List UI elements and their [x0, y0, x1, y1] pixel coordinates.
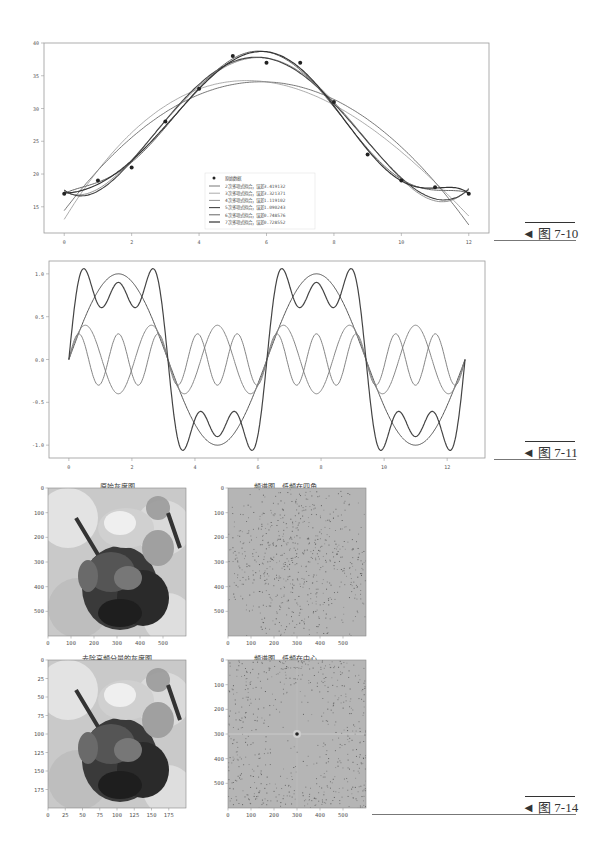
svg-text:50: 50 [79, 812, 86, 818]
svg-text:500: 500 [338, 640, 348, 646]
svg-text:200: 200 [34, 534, 44, 540]
svg-text:400: 400 [214, 756, 224, 762]
svg-text:6: 6 [257, 464, 260, 470]
svg-text:300: 300 [34, 559, 44, 565]
svg-text:400: 400 [135, 640, 145, 646]
svg-text:15: 15 [33, 204, 39, 210]
svg-text:150: 150 [147, 812, 157, 818]
svg-text:25: 25 [62, 812, 69, 818]
svg-text:20: 20 [33, 171, 39, 177]
svg-text:0: 0 [226, 640, 229, 646]
data-point [163, 120, 167, 124]
svg-text:300: 300 [292, 640, 302, 646]
svg-text:100: 100 [246, 812, 256, 818]
legend-label: 原始数据 [225, 175, 242, 182]
svg-text:200: 200 [214, 706, 224, 712]
data-point [62, 192, 66, 196]
data-point [332, 100, 336, 104]
data-point [265, 61, 269, 65]
svg-text:0: 0 [41, 485, 44, 491]
legend-label: 7次多项式拟合，误差0.728552 [225, 219, 286, 226]
data-point [197, 87, 201, 91]
svg-text:100: 100 [34, 731, 44, 737]
polynomial-fit-chart: 024681012152025303540原始数据2次多项式拟合，误差3.419… [0, 0, 610, 245]
svg-text:100: 100 [66, 640, 76, 646]
svg-text:25: 25 [33, 138, 39, 144]
svg-text:-1.0: -1.0 [32, 442, 44, 448]
svg-text:0: 0 [41, 657, 44, 663]
svg-text:300: 300 [292, 812, 302, 818]
svg-text:175: 175 [164, 812, 174, 818]
svg-text:0: 0 [221, 485, 224, 491]
data-point [366, 152, 370, 156]
original-grayscale-image: 01002003004005000100200300400500 [0, 480, 200, 655]
svg-text:100: 100 [214, 682, 224, 688]
spectrum-low-freq-center: 01002003004005000100200300400500 [180, 652, 380, 827]
svg-text:400: 400 [34, 584, 44, 590]
svg-text:75: 75 [37, 713, 44, 719]
svg-text:100: 100 [214, 510, 224, 516]
svg-text:12: 12 [444, 464, 450, 470]
svg-text:30: 30 [33, 106, 39, 112]
svg-text:400: 400 [214, 584, 224, 590]
data-point [231, 54, 235, 58]
svg-text:125: 125 [129, 812, 139, 818]
svg-text:100: 100 [246, 640, 256, 646]
svg-text:0: 0 [46, 812, 49, 818]
svg-text:500: 500 [214, 780, 224, 786]
svg-text:0: 0 [46, 640, 49, 646]
svg-text:2: 2 [130, 464, 133, 470]
svg-text:4: 4 [193, 464, 196, 470]
spectrum-low-freq-corners: 01002003004005000100200300400500 [180, 480, 380, 655]
signal-components-chart: 024681012-1.0-0.50.00.51.0s1-2Hz分量s2-6Hz… [0, 245, 610, 475]
data-point [467, 192, 471, 196]
svg-text:0: 0 [221, 657, 224, 663]
svg-text:400: 400 [315, 812, 325, 818]
caption-rule-bottom [494, 240, 576, 241]
data-point [298, 61, 302, 65]
svg-text:175: 175 [34, 787, 44, 793]
svg-text:300: 300 [214, 559, 224, 565]
svg-text:40: 40 [33, 40, 39, 46]
legend-label: 3次多项式拟合，误差3.321371 [225, 190, 286, 197]
svg-text:400: 400 [315, 640, 325, 646]
svg-text:10: 10 [381, 464, 387, 470]
svg-text:0: 0 [226, 812, 229, 818]
svg-text:200: 200 [269, 640, 279, 646]
caption-rule-bottom [494, 459, 576, 460]
svg-text:50: 50 [37, 694, 44, 700]
svg-text:500: 500 [214, 608, 224, 614]
legend-label: 4次多项式拟合，误差1.119102 [225, 197, 286, 204]
svg-text:125: 125 [34, 750, 44, 756]
svg-text:300: 300 [214, 731, 224, 737]
svg-text:500: 500 [158, 640, 168, 646]
svg-text:200: 200 [269, 812, 279, 818]
legend-label: 2次多项式拟合，误差3.419132 [225, 183, 286, 190]
legend-label: 6次多项式拟合，误差0.748576 [225, 212, 286, 219]
svg-text:150: 150 [34, 768, 44, 774]
svg-text:200: 200 [214, 534, 224, 540]
svg-text:-0.5: -0.5 [32, 399, 44, 405]
svg-text:0: 0 [67, 464, 70, 470]
lowpass-grayscale-image: 02550751001251501750255075100125150175 [0, 652, 200, 827]
data-point [399, 179, 403, 183]
svg-text:100: 100 [112, 812, 122, 818]
caption-rule-bottom [372, 814, 576, 815]
svg-text:200: 200 [89, 640, 99, 646]
data-point [96, 179, 100, 183]
data-point [130, 165, 134, 169]
svg-text:500: 500 [34, 608, 44, 614]
data-point [433, 185, 437, 189]
svg-text:300: 300 [112, 640, 122, 646]
svg-text:35: 35 [33, 73, 39, 79]
legend-label: 5次多项式拟合，误差1.090243 [225, 204, 286, 211]
svg-text:100: 100 [34, 510, 44, 516]
svg-text:8: 8 [320, 464, 323, 470]
svg-text:0.5: 0.5 [35, 314, 44, 320]
svg-text:25: 25 [37, 676, 44, 682]
svg-text:500: 500 [338, 812, 348, 818]
svg-text:75: 75 [96, 812, 103, 818]
svg-text:1.0: 1.0 [35, 271, 44, 277]
svg-text:0.0: 0.0 [35, 357, 44, 363]
